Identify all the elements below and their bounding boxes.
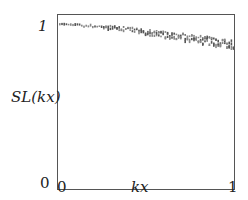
x-tick-0: 0	[57, 178, 67, 196]
y-axis-label: SL(kx)	[11, 88, 61, 106]
y-tick-1: 1	[38, 17, 48, 35]
x-tick-1: 1	[228, 178, 238, 196]
x-axis-label: kx	[131, 178, 149, 196]
y-tick-0: 0	[40, 174, 50, 192]
scatter-plot-area	[57, 14, 235, 190]
